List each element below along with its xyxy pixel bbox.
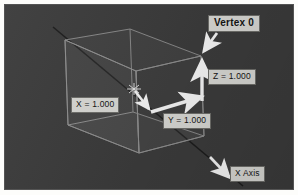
wireframe-cube[interactable]: [65, 29, 204, 153]
x-axis-label: X Axis: [230, 166, 265, 182]
screenshot-root: Vertex 0 Z = 1.000 X = 1.000 Y = 1.000 X…: [0, 0, 298, 195]
y-measure-label: Y = 1.000: [163, 113, 211, 129]
vertex-callout-arrow: [204, 33, 217, 51]
z-measure-label: Z = 1.000: [208, 69, 256, 85]
vertex-label: Vertex 0: [208, 15, 260, 32]
3d-viewport[interactable]: Vertex 0 Z = 1.000 X = 1.000 Y = 1.000 X…: [4, 4, 294, 190]
x-axis-callout-arrow: [210, 157, 229, 177]
x-measure-label: X = 1.000: [71, 97, 119, 113]
cube-scene: [5, 5, 294, 190]
